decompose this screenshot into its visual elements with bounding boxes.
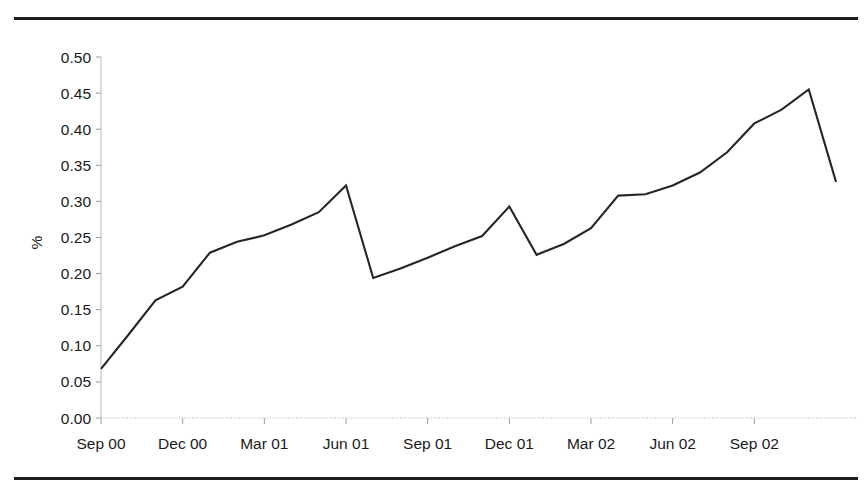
y-tick-label: 0.05 — [61, 373, 91, 390]
x-tick-label: Sep 02 — [730, 435, 779, 452]
data-series-line — [101, 89, 836, 368]
x-tick-label: Jun 01 — [323, 435, 370, 452]
y-axis-tick-labels: 0.000.050.100.150.200.250.300.350.400.45… — [61, 49, 92, 427]
y-tick-label: 0.35 — [61, 157, 91, 174]
y-axis-tick-marks — [96, 57, 101, 418]
x-tick-label: Jun 02 — [649, 435, 696, 452]
y-tick-label: 0.40 — [61, 121, 92, 138]
x-tick-label: Sep 00 — [76, 435, 126, 452]
x-tick-label: Mar 01 — [240, 435, 288, 452]
y-tick-label: 0.50 — [61, 49, 92, 66]
line-chart-svg: 0.000.050.100.150.200.250.300.350.400.45… — [0, 0, 867, 493]
x-axis-tick-marks — [101, 418, 754, 424]
figure-container: 0.000.050.100.150.200.250.300.350.400.45… — [0, 0, 867, 493]
y-tick-label: 0.25 — [61, 229, 91, 246]
chart-plot-area: 0.000.050.100.150.200.250.300.350.400.45… — [0, 0, 867, 493]
x-tick-label: Sep 01 — [403, 435, 452, 452]
x-tick-label: Mar 02 — [567, 435, 615, 452]
y-tick-label: 0.00 — [61, 410, 92, 427]
y-tick-label: 0.45 — [61, 85, 91, 102]
y-tick-label: 0.20 — [61, 265, 92, 282]
x-tick-label: Dec 01 — [485, 435, 534, 452]
x-tick-label: Dec 00 — [158, 435, 207, 452]
y-tick-label: 0.15 — [61, 301, 91, 318]
x-axis-tick-labels: Sep 00Dec 00Mar 01Jun 01Sep 01Dec 01Mar … — [76, 435, 778, 452]
y-tick-label: 0.30 — [61, 193, 92, 210]
y-tick-label: 0.10 — [61, 337, 92, 354]
y-axis-title: % — [28, 235, 45, 249]
